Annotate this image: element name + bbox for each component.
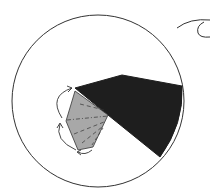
origami-diagram — [0, 0, 210, 194]
rotate-view-icon — [177, 20, 210, 38]
